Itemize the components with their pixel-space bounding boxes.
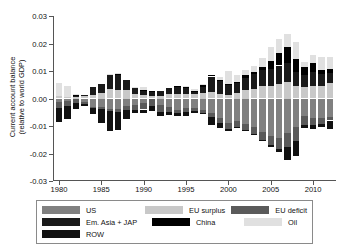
bar-segment — [284, 63, 290, 82]
bar-segment — [234, 83, 240, 93]
bar-2000 — [225, 16, 231, 181]
bar-segment — [174, 86, 180, 87]
bar-segment — [115, 90, 121, 99]
legend-swatch-china — [152, 218, 190, 226]
bar-segment — [123, 80, 129, 90]
bar-segment — [64, 86, 70, 97]
bar-2005 — [268, 16, 274, 181]
bar-segment — [107, 74, 113, 75]
bar-2004 — [259, 16, 265, 181]
bar-segment — [259, 140, 265, 141]
legend-swatch-oil — [244, 218, 282, 226]
bar-segment — [251, 89, 257, 99]
bar-segment — [81, 104, 87, 107]
y-tick — [49, 16, 53, 17]
bar-1980 — [56, 16, 62, 181]
bar-segment — [174, 99, 180, 110]
bar-segment — [81, 95, 87, 97]
bar-segment — [251, 74, 257, 88]
bar-segment — [140, 91, 146, 95]
y-tick-label: 0.03 — [32, 12, 47, 21]
bar-1998 — [208, 16, 214, 181]
bar-segment — [149, 91, 155, 92]
bar-2009 — [301, 16, 307, 181]
bar-segment — [107, 99, 113, 110]
bar-1984 — [90, 16, 96, 181]
bar-segment — [310, 99, 316, 119]
bar-segment — [259, 67, 265, 71]
bar-1999 — [217, 16, 223, 181]
bar-segment — [208, 117, 214, 125]
bar-segment — [327, 99, 333, 117]
bar-segment — [259, 58, 265, 66]
bar-segment — [123, 110, 129, 120]
bar-segment — [318, 74, 324, 86]
bar-segment — [98, 84, 104, 93]
bar-1987 — [115, 16, 121, 181]
bar-segment — [115, 74, 121, 75]
bar-2008 — [293, 16, 299, 181]
bar-segment — [284, 133, 290, 147]
x-tick-label: 2000 — [220, 185, 237, 194]
bar-1991 — [149, 16, 155, 181]
bar-segment — [284, 99, 290, 133]
bar-2010 — [310, 16, 316, 181]
bar-segment — [191, 91, 197, 92]
bar-segment — [225, 95, 231, 99]
bar-2011 — [318, 16, 324, 181]
bar-segment — [293, 127, 299, 141]
bar-segment — [234, 99, 240, 122]
bar-segment — [217, 80, 223, 81]
bar-segment — [310, 72, 316, 86]
bar-segment — [208, 77, 214, 92]
bar-segment — [318, 124, 324, 127]
plot-area: 0.030.020.010.00-0.01-0.02-0.03 19801985… — [53, 16, 336, 181]
bar-segment — [56, 108, 62, 122]
bar-segment — [268, 145, 274, 147]
bar-segment — [268, 47, 274, 60]
bar-segment — [191, 94, 197, 99]
y-tick-label: -0.02 — [30, 149, 47, 158]
y-tick-label: -0.01 — [30, 122, 47, 131]
x-tick-label: 1990 — [135, 185, 152, 194]
legend-label-china: China — [196, 218, 215, 227]
bar-segment — [242, 78, 248, 91]
bar-segment — [251, 127, 257, 134]
bar-segment — [174, 87, 180, 94]
bar-2003 — [251, 16, 257, 181]
legend-item-eu-deficit: EU deficit — [231, 206, 307, 215]
bar-segment — [259, 86, 265, 98]
bar-segment — [56, 83, 62, 96]
bar-segment — [174, 94, 180, 99]
bar-segment — [327, 73, 333, 83]
x-tick-label: 2010 — [305, 185, 322, 194]
bar-segment — [166, 94, 172, 98]
bar-segment — [149, 96, 155, 98]
x-tick-label: 2005 — [262, 185, 279, 194]
bar-segment — [276, 84, 282, 99]
bar-segment — [183, 88, 189, 94]
bar-segment — [276, 149, 282, 152]
bar-segment — [140, 95, 146, 98]
bar-segment — [157, 96, 163, 99]
bar-1995 — [183, 16, 189, 181]
bar-segment — [90, 95, 96, 99]
bar-segment — [225, 99, 231, 124]
bar-segment — [225, 129, 231, 131]
bar-segment — [318, 86, 324, 99]
bar-segment — [293, 99, 299, 128]
bar-segment — [276, 66, 282, 84]
bar-segment — [200, 85, 206, 87]
bar-1996 — [191, 16, 197, 181]
bar-segment — [217, 77, 223, 80]
bar-segment — [200, 87, 206, 93]
bar-segment — [115, 73, 121, 74]
bar-segment — [242, 75, 248, 77]
bar-segment — [259, 70, 265, 86]
bar-1985 — [98, 16, 104, 181]
bar-segment — [183, 86, 189, 87]
bar-segment — [90, 87, 96, 95]
y-tick — [49, 126, 53, 127]
bar-segment — [327, 57, 333, 69]
bar-segment — [200, 84, 206, 85]
